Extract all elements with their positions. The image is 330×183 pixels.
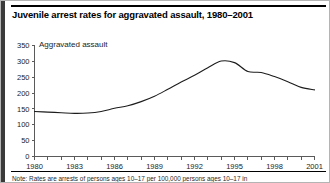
svg-text:250: 250 bbox=[17, 73, 30, 82]
svg-text:1995: 1995 bbox=[226, 162, 243, 171]
plot-area: 050100150200250300350 198019831986198919… bbox=[1, 1, 330, 183]
svg-text:0: 0 bbox=[25, 152, 29, 161]
footnote-divider bbox=[11, 171, 326, 172]
svg-text:350: 350 bbox=[17, 41, 30, 50]
svg-text:1986: 1986 bbox=[106, 162, 123, 171]
svg-text:300: 300 bbox=[17, 57, 30, 66]
chart-figure: Juvenile arrest rates for aggravated ass… bbox=[0, 0, 330, 183]
svg-text:150: 150 bbox=[17, 105, 30, 114]
footnote-text: Note: Rates are arrests of persons ages … bbox=[12, 175, 330, 183]
line-chart-svg: 050100150200250300350 198019831986198919… bbox=[1, 1, 330, 183]
svg-text:50: 50 bbox=[21, 136, 29, 145]
svg-text:200: 200 bbox=[17, 89, 30, 98]
x-axis-tick-labels: 19801983198619891992199519982001 bbox=[26, 162, 323, 171]
svg-text:100: 100 bbox=[17, 120, 30, 129]
series-line-aggravated-assault bbox=[35, 61, 315, 114]
svg-text:1992: 1992 bbox=[186, 162, 203, 171]
x-axis-ticks bbox=[35, 157, 315, 161]
series-legend-label: Aggravated assault bbox=[39, 40, 108, 49]
svg-text:1983: 1983 bbox=[66, 162, 83, 171]
svg-text:1989: 1989 bbox=[146, 162, 163, 171]
svg-text:1980: 1980 bbox=[26, 162, 43, 171]
svg-text:2001: 2001 bbox=[306, 162, 323, 171]
svg-text:1998: 1998 bbox=[266, 162, 283, 171]
y-axis-tick-labels: 050100150200250300350 bbox=[17, 41, 30, 161]
